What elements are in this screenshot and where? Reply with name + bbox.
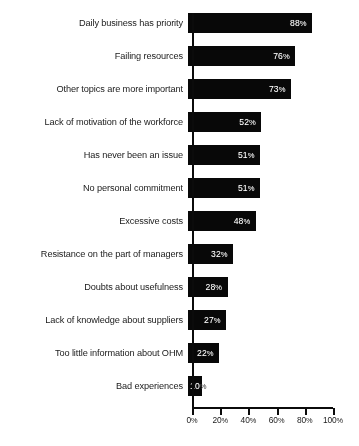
percent-sign: % — [278, 416, 284, 425]
percent-sign: % — [337, 416, 343, 425]
x-axis-tick-label: 60% — [269, 414, 285, 427]
x-axis-line — [192, 407, 333, 409]
x-axis-tick-number: 20 — [212, 415, 221, 425]
percent-sign: % — [250, 416, 256, 425]
bar-category-label: Doubts about usefulness — [0, 277, 188, 297]
bar-category-label: Lack of motivation of the workforce — [0, 112, 188, 132]
percent-sign: % — [306, 416, 312, 425]
percent-sign: % — [222, 416, 228, 425]
x-axis-tick-label: 100% — [323, 414, 343, 427]
x-axis-tick-number: 100 — [323, 415, 337, 425]
figure-caption — [6, 437, 354, 446]
x-axis-tick-number: 40 — [241, 415, 250, 425]
bar-category-label: Failing resources — [0, 46, 188, 66]
x-axis-tick-number: 60 — [269, 415, 278, 425]
percent-sign: % — [191, 416, 197, 425]
chart-axis — [192, 13, 333, 409]
bar-category-label: Excessive costs — [0, 211, 188, 231]
bar-chart: Daily business has priority88%Failing re… — [0, 0, 359, 446]
bar-category-label: No personal commitment — [0, 178, 188, 198]
x-axis-tick-labels: 0%20%40%60%80%100% — [178, 414, 353, 428]
x-axis-tick-label: 40% — [241, 414, 257, 427]
y-axis-line — [192, 13, 194, 409]
bar-category-label: Has never been an issue — [0, 145, 188, 165]
bar-category-label: Too little information about OHM — [0, 343, 188, 363]
x-axis-tick-number: 80 — [297, 415, 306, 425]
bar-category-label: Daily business has priority — [0, 13, 188, 33]
bar-category-label: Lack of knowledge about suppliers — [0, 310, 188, 330]
bar-category-label: Resistance on the part of managers — [0, 244, 188, 264]
x-axis-tick-label: 0% — [186, 414, 197, 427]
bar-category-label: Other topics are more important — [0, 79, 188, 99]
x-axis-tick-label: 20% — [212, 414, 228, 427]
bar-category-label: Bad experiences — [0, 376, 188, 396]
x-axis-tick-label: 80% — [297, 414, 313, 427]
